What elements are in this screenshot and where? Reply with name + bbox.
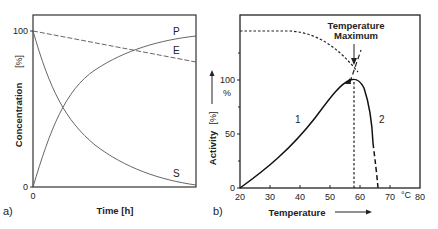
y-tick-label-50: 50 [225,129,235,139]
y-axis-label-a: Concentration [13,83,24,148]
y-tick-label-0: 0 [23,182,28,192]
annotation-line2: Maximum [334,30,378,41]
label-curve-1: 1 [295,114,301,125]
x-tick-label-40: 40 [295,192,305,202]
x-tick-label-30: 30 [265,192,275,202]
label-p: P [173,26,180,37]
y-axis-label-b: Activity [207,130,218,165]
series-e-line [33,31,196,62]
arrow-right-icon [366,210,372,215]
y-unit-percent: % [223,88,231,98]
series-extrapolation-line [350,50,361,82]
x-axis-label-b: Temperature [269,207,326,218]
x-tick-label-70: 70 [385,192,395,202]
y-tick-label-100: 100 [13,26,28,36]
chart-a: 100 0 0 P E S Time [h] Concentration [%]… [3,15,196,217]
x-tick-label-80: 80 [415,192,425,202]
plot-frame-b [240,15,420,188]
x-unit-celsius: °C [401,190,412,200]
x-axis-label-a: Time [h] [97,205,134,216]
series-2-line [373,143,378,188]
y-tick-label-100: 100 [220,75,235,85]
panel-label-a: a) [3,205,13,217]
x-tick-label-0: 0 [30,191,35,201]
label-curve-2: 2 [379,114,385,125]
series-p-line [33,36,196,187]
panel-label-b: b) [213,205,223,217]
x-tick-label-50: 50 [325,192,335,202]
figure: 100 0 0 P E S Time [h] Concentration [%]… [0,0,438,229]
x-tick-label-60: 60 [355,192,365,202]
x-tick-label-20: 20 [235,192,245,202]
y-axis-unit-b: [%] [208,111,218,124]
label-e: E [173,45,180,56]
arrow-up-icon [210,70,215,76]
label-s: S [173,168,180,179]
series-s-line [33,31,196,185]
plot-frame-a [33,15,196,187]
chart-b: 0 50 100 % 20 30 40 50 60 70 80 °C [207,15,425,218]
series-1-line [240,79,373,188]
y-axis-unit-a: [%] [14,55,24,68]
